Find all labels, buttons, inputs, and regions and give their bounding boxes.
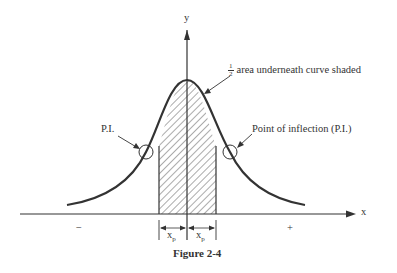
shaded-area-text: area underneath curve shaded: [237, 64, 361, 75]
negative-sign: −: [76, 222, 82, 233]
shaded-area-annotation: 1 2 area underneath curve shaded: [228, 63, 361, 78]
figure-caption: Figure 2-4: [173, 247, 221, 259]
interval-label-right: xp: [196, 229, 205, 243]
pi-left-arrow: [118, 136, 140, 149]
y-axis-label: y: [184, 12, 189, 23]
pi-left-label: P.I.: [101, 123, 114, 134]
one-half-fraction: 1 2: [228, 63, 234, 78]
interval-label-left: xp: [167, 229, 176, 243]
positive-sign: +: [287, 222, 293, 233]
pi-right-label: Point of inflection (P.I.): [252, 123, 351, 134]
x-axis-label: x: [361, 206, 366, 217]
shaded-area-arrow: [204, 76, 230, 94]
pi-right-arrow: [237, 134, 252, 148]
